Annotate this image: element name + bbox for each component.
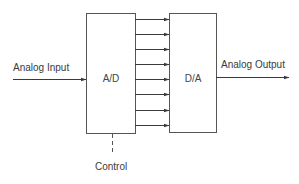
analog-input-label: Analog Input bbox=[13, 63, 69, 73]
parallel-bus bbox=[135, 20, 169, 126]
da-block-label: D/A bbox=[169, 74, 217, 84]
control-label: Control bbox=[95, 162, 127, 172]
diagram-canvas bbox=[0, 0, 299, 184]
ad-block-label: A/D bbox=[86, 74, 136, 84]
analog-output-label: Analog Output bbox=[221, 60, 285, 70]
